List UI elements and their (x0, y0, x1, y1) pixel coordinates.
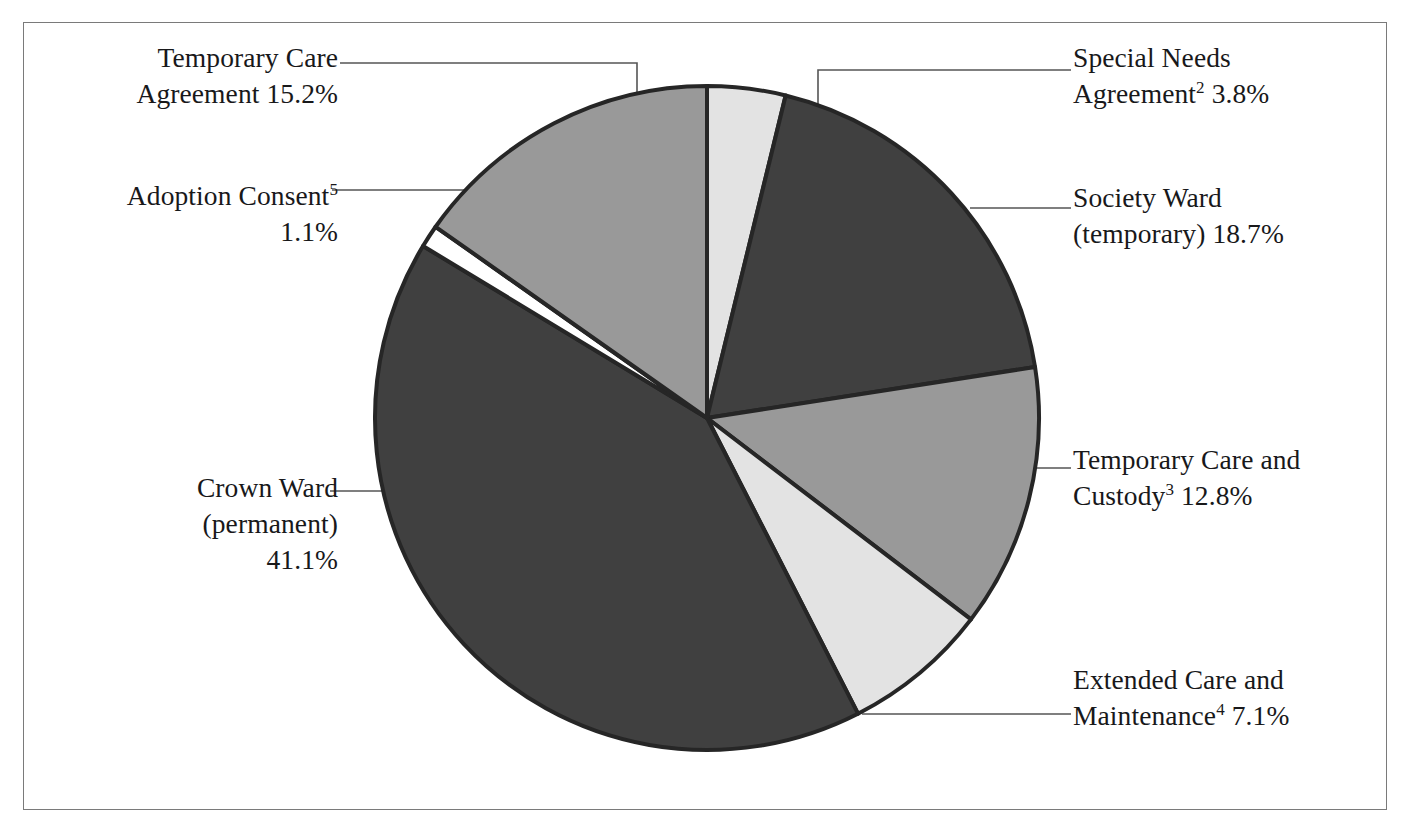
leader-line-special-needs-agreement (818, 70, 1071, 104)
label-society-ward: Society Ward (temporary) 18.7% (1073, 180, 1373, 252)
label-text: Agreement (1073, 78, 1196, 109)
label-line-1: Temporary Care and (1073, 442, 1373, 478)
pie-slices-group: Special Needs Agreement2 3.8%Society War… (375, 86, 1039, 750)
label-line-1: Special Needs (1073, 40, 1373, 76)
label-text: Custody (1073, 480, 1165, 511)
label-line-2: (permanent) (90, 506, 338, 542)
label-line-1: Temporary Care (78, 40, 338, 76)
label-line-2: Custody3 12.8% (1073, 478, 1373, 514)
label-temporary-care-and-custody: Temporary Care and Custody3 12.8% (1073, 442, 1373, 514)
label-line-2: Agreement2 3.8% (1073, 76, 1373, 112)
footnote-marker: 4 (1216, 700, 1225, 719)
label-line-2: Agreement 15.2% (78, 76, 338, 112)
label-line-1: Society Ward (1073, 180, 1373, 216)
label-line-2: 1.1% (46, 214, 338, 250)
label-text: Adoption Consent (127, 180, 330, 211)
label-extended-care-and-maintenance: Extended Care and Maintenance4 7.1% (1073, 662, 1373, 734)
label-value: 12.8% (1174, 480, 1253, 511)
footnote-marker: 3 (1165, 480, 1174, 499)
label-line-1: Adoption Consent5 (46, 178, 338, 214)
label-value: 3.8% (1205, 78, 1270, 109)
label-special-needs-agreement: Special Needs Agreement2 3.8% (1073, 40, 1373, 112)
label-line-2: (temporary) 18.7% (1073, 216, 1373, 252)
label-line-1: Extended Care and (1073, 662, 1373, 698)
label-adoption-consent: Adoption Consent5 1.1% (46, 178, 338, 250)
label-temporary-care-agreement: Temporary Care Agreement 15.2% (78, 40, 338, 112)
label-line-3: 41.1% (90, 542, 338, 578)
label-line-1: Crown Ward (90, 470, 338, 506)
footnote-marker: 2 (1196, 78, 1205, 97)
label-text: Maintenance (1073, 700, 1216, 731)
pie-chart-figure: Special Needs Agreement2 3.8%Society War… (0, 0, 1405, 836)
label-line-2: Maintenance4 7.1% (1073, 698, 1373, 734)
leader-line-temporary-care-agreement (340, 63, 637, 92)
footnote-marker: 5 (329, 180, 338, 199)
label-value: 7.1% (1225, 700, 1290, 731)
label-crown-ward: Crown Ward (permanent) 41.1% (90, 470, 338, 577)
